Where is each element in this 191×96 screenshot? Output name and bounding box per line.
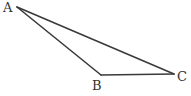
edge-ab: [17, 7, 101, 75]
edge-bc: [101, 74, 174, 75]
triangle-diagram: A B C: [0, 0, 191, 96]
vertex-label-b: B: [92, 78, 102, 93]
edge-ac: [17, 7, 174, 74]
vertex-label-c: C: [177, 69, 187, 84]
vertex-label-a: A: [2, 0, 13, 15]
